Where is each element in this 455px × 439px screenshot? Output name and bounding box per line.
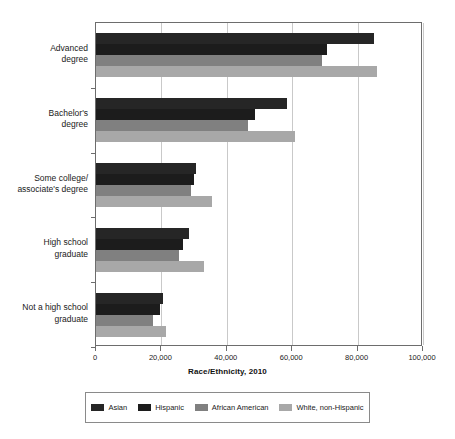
legend-label: Hispanic xyxy=(155,403,184,412)
bar-group xyxy=(96,98,421,142)
bar-row xyxy=(96,239,421,250)
bar xyxy=(96,250,179,261)
y-axis-tick xyxy=(91,153,96,154)
legend-item[interactable]: Hispanic xyxy=(137,403,185,412)
bar xyxy=(96,109,255,120)
legend-label: White, non-Hispanic xyxy=(296,403,363,412)
bar-row xyxy=(96,174,421,185)
x-axis-tick-label: 40,000 xyxy=(214,353,237,362)
x-axis-tick xyxy=(226,346,227,351)
bar-row xyxy=(96,131,421,142)
bar xyxy=(96,261,204,272)
y-axis-label: Some college/associate's degree xyxy=(0,173,88,196)
bar-row xyxy=(96,55,421,66)
bar-chart-figure: AdvanceddegreeBachelor'sdegreeSome colle… xyxy=(0,0,455,439)
bar xyxy=(96,174,194,185)
legend-swatch-icon xyxy=(138,404,151,411)
y-axis-label-line: degree xyxy=(0,119,88,131)
bar-row xyxy=(96,163,421,174)
bar-row xyxy=(96,228,421,239)
x-axis-tick-label: 20,000 xyxy=(149,353,172,362)
legend-item[interactable]: White, non-Hispanic xyxy=(278,403,364,412)
bar xyxy=(96,304,160,315)
legend-item[interactable]: Asian xyxy=(90,403,128,412)
legend-item[interactable]: African American xyxy=(194,403,270,412)
bar-group xyxy=(96,293,421,337)
bar xyxy=(96,326,166,337)
x-axis-tick xyxy=(357,346,358,351)
bar xyxy=(96,196,212,207)
bar xyxy=(96,44,327,55)
bar xyxy=(96,293,163,304)
bar xyxy=(96,98,287,109)
bar-row xyxy=(96,196,421,207)
gridline xyxy=(423,23,424,345)
bar xyxy=(96,55,322,66)
bar xyxy=(96,33,374,44)
bar-row xyxy=(96,109,421,120)
y-axis-label-line: Some college/ xyxy=(0,173,88,185)
x-axis-title: Race/Ethnicity, 2010 xyxy=(0,367,455,376)
y-axis-label-line: High school xyxy=(0,237,88,249)
x-axis-tick-label: 100,000 xyxy=(408,353,435,362)
legend-label: Asian xyxy=(108,403,127,412)
bar-row xyxy=(96,261,421,272)
bar xyxy=(96,315,153,326)
bar-row xyxy=(96,33,421,44)
y-axis-tick xyxy=(91,217,96,218)
bar xyxy=(96,66,377,77)
y-axis-label: Not a high schoolgraduate xyxy=(0,302,88,325)
y-axis-label-line: associate's degree xyxy=(0,184,88,196)
y-axis-tick xyxy=(91,88,96,89)
legend-swatch-icon xyxy=(195,404,208,411)
y-axis-label-line: Not a high school xyxy=(0,302,88,314)
bar xyxy=(96,185,191,196)
y-axis-label: High schoolgraduate xyxy=(0,237,88,260)
x-axis-tick-label: 60,000 xyxy=(280,353,303,362)
bar xyxy=(96,228,189,239)
y-axis-labels: AdvanceddegreeBachelor'sdegreeSome colle… xyxy=(0,22,88,346)
bar-row xyxy=(96,66,421,77)
x-axis-tick-label: 80,000 xyxy=(345,353,368,362)
x-axis-tick xyxy=(291,346,292,351)
bar-row xyxy=(96,98,421,109)
y-axis-tick xyxy=(91,282,96,283)
bar-row xyxy=(96,326,421,337)
bar xyxy=(96,131,295,142)
y-axis-label: Bachelor'sdegree xyxy=(0,108,88,131)
x-axis-tick-label: 0 xyxy=(93,353,97,362)
bar-group xyxy=(96,228,421,272)
bar xyxy=(96,239,183,250)
x-axis-tick xyxy=(422,346,423,351)
y-axis-label: Advanceddegree xyxy=(0,43,88,66)
bar-row xyxy=(96,250,421,261)
y-axis-label-line: Bachelor's xyxy=(0,108,88,120)
bar-row xyxy=(96,185,421,196)
bar-group xyxy=(96,163,421,207)
x-axis-tick xyxy=(95,346,96,351)
y-axis-label-line: graduate xyxy=(0,314,88,326)
bar-row xyxy=(96,293,421,304)
bar xyxy=(96,163,196,174)
bar-row xyxy=(96,315,421,326)
y-axis-label-line: graduate xyxy=(0,249,88,261)
bar xyxy=(96,120,248,131)
bar-row xyxy=(96,120,421,131)
legend-label: African American xyxy=(212,403,269,412)
bar-row xyxy=(96,304,421,315)
bar-row xyxy=(96,44,421,55)
plot-area xyxy=(95,22,422,346)
y-axis-label-line: Advanced xyxy=(0,43,88,55)
x-axis-tick xyxy=(160,346,161,351)
bar-group xyxy=(96,33,421,77)
y-axis-label-line: degree xyxy=(0,54,88,66)
legend-swatch-icon xyxy=(91,404,104,411)
legend-swatch-icon xyxy=(279,404,292,411)
chart-legend: AsianHispanicAfrican AmericanWhite, non-… xyxy=(85,392,370,423)
